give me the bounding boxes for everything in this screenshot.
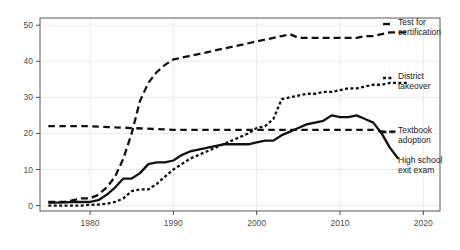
y-tick-label: 40 — [24, 56, 34, 66]
series-label-line2: certification — [398, 27, 441, 37]
series-label-line1: High school — [398, 155, 443, 165]
x-tick-label: 1990 — [164, 218, 183, 228]
x-tick-label: 2020 — [414, 218, 433, 228]
line-chart: 01020304050 19801990200020102020 Test fo… — [0, 0, 460, 250]
series-label-line1: Test for — [398, 17, 426, 27]
y-tick-label: 50 — [24, 20, 34, 30]
series-label-line2: adoption — [398, 135, 431, 145]
chart-background — [0, 0, 460, 250]
y-tick-label: 0 — [28, 201, 33, 211]
y-tick-label: 10 — [24, 165, 34, 175]
x-tick-label: 1980 — [81, 218, 100, 228]
series-label-line1: Textbook — [398, 125, 433, 135]
chart-container: 01020304050 19801990200020102020 Test fo… — [0, 0, 460, 250]
x-tick-label: 2010 — [331, 218, 350, 228]
y-tick-label: 30 — [24, 92, 34, 102]
x-tick-label: 2000 — [247, 218, 266, 228]
y-tick-label: 20 — [24, 128, 34, 138]
series-label-line2: exit exam — [398, 165, 434, 175]
series-label-line1: District — [398, 71, 425, 81]
series-label-line2: takeover — [398, 81, 431, 91]
